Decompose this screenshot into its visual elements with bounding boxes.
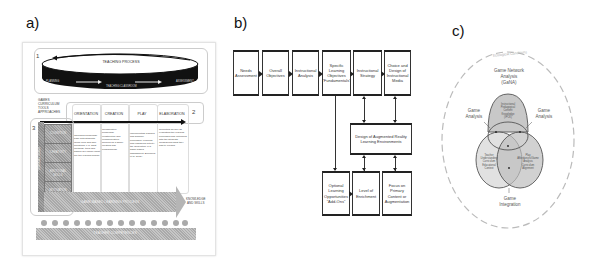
box-level-of-enrichment: Level of Enrichment <box>352 171 380 216</box>
game-based-learning-arrow-head <box>176 186 186 218</box>
phase-arrow-head <box>181 119 186 125</box>
star-icon <box>162 220 168 226</box>
right-circle-text: Play Affordances/Game Analysis Curriculu… <box>514 154 542 170</box>
box-instructional-media: Choice and Design of Instructional Media <box>384 50 411 96</box>
left-header: GAMES CURRICULUM TOOLS APPROACHES <box>38 98 60 114</box>
arrow-up-icon <box>393 155 397 158</box>
star-icon <box>107 220 113 226</box>
gana-title-line: (GaNA) <box>484 80 534 86</box>
side-cell-label: EMOTIONAL SKILLS <box>45 169 71 177</box>
step-number-3: 3 <box>32 126 35 130</box>
gana-title: Game Network Analysis (GaNA) <box>484 68 534 86</box>
label-line: Analysis <box>460 114 488 120</box>
side-cell-label: CREATIVITY <box>45 150 71 154</box>
box-specific-learning-objectives: Specific Learning Objectives "Fundamenta… <box>322 50 351 96</box>
column-header-play: PLAY <box>128 112 156 116</box>
arrow-end-label-line: AND SKILLS <box>186 201 206 205</box>
star-icon <box>151 220 157 226</box>
disc-right-label: ASSESSMENT <box>176 80 194 84</box>
arrow-up-icon <box>362 155 366 158</box>
arrow-right-icon <box>381 71 385 77</box>
connector-line <box>364 98 365 122</box>
star-icon <box>41 220 47 226</box>
column-text-creation: Collaborative knowledge construction and… <box>102 128 128 151</box>
connector-line <box>335 96 336 170</box>
arrow-up-icon <box>362 96 366 99</box>
star-icon <box>118 220 124 226</box>
circle-text-line: (IPCK) <box>494 116 522 119</box>
panel-b-label: b) <box>234 14 247 31</box>
arrow-right-icon <box>350 71 354 77</box>
step-number-2: 2 <box>192 110 195 114</box>
label-line: Integration <box>492 202 528 208</box>
column-header-elaboration: ELABORATION <box>157 112 187 116</box>
column-header-creation: CREATION <box>100 112 128 116</box>
star-icon <box>52 220 58 226</box>
column-header-orientation: ORIENTATION <box>72 112 100 116</box>
arrow-end-label: KNOWLEDGE AND SKILLS <box>186 197 206 205</box>
right-game-analysis-label: Game Analysis <box>530 108 558 120</box>
game-integration-label: Game Integration <box>492 196 528 208</box>
top-circle-text: Instructional Pedagogical Content Knowle… <box>494 103 522 119</box>
box-optional-opportunities: Optional Learning Opportunities "Add-Ons… <box>322 171 350 216</box>
star-icon <box>140 220 146 226</box>
star-icon <box>74 220 80 226</box>
box-focus-content: Focus on Primary Content or Augmentation <box>382 171 412 216</box>
star-icon <box>85 220 91 226</box>
side-cell-creativity: CREATIVITY <box>44 143 72 163</box>
panel-a-label: a) <box>26 14 39 31</box>
disc-title: TEACHING PROCESS <box>96 60 146 64</box>
star-icon <box>96 220 102 226</box>
circle-text-line: Context <box>477 167 501 170</box>
label-line: Analysis <box>530 114 558 120</box>
arrow-right-icon <box>319 71 323 77</box>
box-needs-assessment: Needs Assessment <box>233 50 259 96</box>
side-cell-label: COGNITION <box>45 131 71 135</box>
step-number-1: 1 <box>36 54 39 58</box>
disc-left-label: PLANNING <box>46 80 59 84</box>
box-instructional-strategy: Instructional Strategy <box>353 50 382 96</box>
box-overall-objectives: Overall Objectives <box>262 50 289 96</box>
column-text-play: Implementing planned and gameful process… <box>130 132 156 158</box>
column-text-elaboration: Reflecting as well as evaluating the lea… <box>159 128 187 148</box>
arrow-right-icon <box>259 71 263 77</box>
side-cell-cognition: COGNITION <box>44 124 72 144</box>
column-elaboration <box>157 104 189 194</box>
circle-text-line: Alignment <box>514 167 542 170</box>
disc-bottom-label: TEACHING CLASSROOM <box>106 85 137 89</box>
box-ar-environment-design: Design of Augmented Reality Learning Env… <box>350 123 412 155</box>
left-game-analysis-label: Game Analysis <box>460 108 488 120</box>
teacher-competences-label: TEACHER COMPETENCES <box>80 231 150 235</box>
star-icon <box>182 220 188 226</box>
arrow-right-icon <box>349 191 353 197</box>
star-icon <box>129 220 135 226</box>
left-header-line: APPROACHES <box>38 110 60 114</box>
big-arrow-label: GAME-BASED LEARNING PROCESS <box>70 200 150 204</box>
side-cell-emotional: EMOTIONAL SKILLS <box>44 162 72 182</box>
star-icon <box>63 220 69 226</box>
panel-c-label: c) <box>452 22 465 39</box>
star-icon <box>173 220 179 226</box>
left-circle-text: Teacher Understanding Curriculum Educati… <box>477 154 501 170</box>
column-text-orientation: Choosing knowledge base with students' i… <box>74 134 100 157</box>
connector-line <box>395 98 396 122</box>
box-instructional-analysis: Instructional Analysis <box>292 50 319 96</box>
arrow-right-icon <box>289 71 293 77</box>
arrow-up-icon <box>393 96 397 99</box>
learning-goals-label: LEARNING GOALS <box>38 147 41 170</box>
